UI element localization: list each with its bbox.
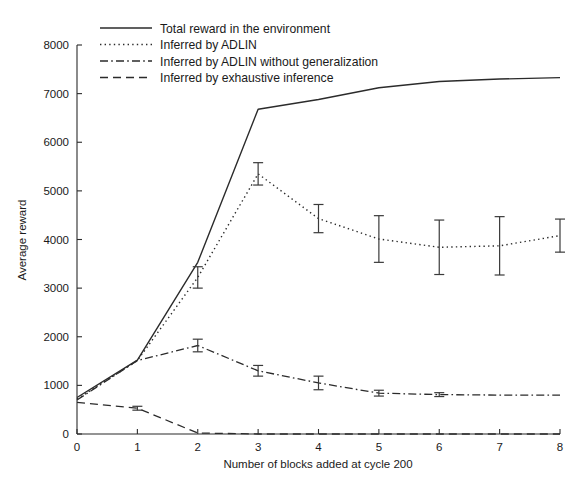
y-tick-group: 010002000300040005000600070008000 [43, 39, 82, 440]
legend-label-0: Total reward in the environment [160, 22, 331, 36]
legend-label-2: Inferred by ADLIN without generalization [160, 55, 378, 69]
y-axis-group: 010002000300040005000600070008000 [43, 39, 82, 440]
chart-figure: 010002000300040005000600070008000 012345… [0, 0, 581, 484]
line-chart-canvas: 010002000300040005000600070008000 012345… [0, 0, 581, 484]
x-tick-label: 7 [496, 441, 502, 453]
series-line-0 [77, 78, 560, 398]
x-tick-label: 1 [134, 441, 140, 453]
series-line-2 [77, 346, 560, 400]
x-tick-label: 2 [195, 441, 201, 453]
x-tick-group: 012345678 [74, 429, 563, 453]
y-tick-label: 1000 [43, 379, 69, 391]
y-tick-label: 6000 [43, 136, 69, 148]
y-tick-label: 2000 [43, 331, 69, 343]
x-tick-label: 6 [436, 441, 442, 453]
y-tick-label: 8000 [43, 39, 69, 51]
x-tick-label: 5 [376, 441, 382, 453]
x-tick-label: 3 [255, 441, 261, 453]
legend-label-1: Inferred by ADLIN [160, 38, 257, 52]
y-tick-label: 4000 [43, 234, 69, 246]
y-tick-label: 5000 [43, 185, 69, 197]
x-tick-label: 4 [315, 441, 322, 453]
y-axis-title: Average reward [16, 200, 28, 281]
chart-legend: Total reward in the environmentInferred … [100, 22, 378, 86]
x-tick-label: 0 [74, 441, 80, 453]
x-axis-group: 012345678 [74, 429, 563, 453]
y-tick-label: 7000 [43, 88, 69, 100]
x-tick-label: 8 [557, 441, 563, 453]
legend-label-3: Inferred by exhaustive inference [160, 71, 334, 85]
errorbar-group [132, 163, 565, 411]
y-tick-label: 0 [63, 428, 69, 440]
x-axis-title: Number of blocks added at cycle 200 [223, 458, 412, 470]
y-tick-label: 3000 [43, 282, 69, 294]
